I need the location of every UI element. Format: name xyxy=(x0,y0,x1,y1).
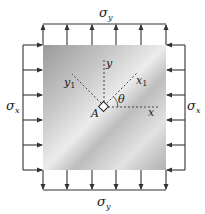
sigma-x-right-label: σx xyxy=(187,98,201,115)
sigma-y-bottom-label: σy xyxy=(97,194,111,211)
sigma-x-left-arrows xyxy=(23,45,42,170)
sigma-x-right-arrows xyxy=(167,45,185,170)
stress-element-diagram: σy σy σx σx y x x1 y1 θ A xyxy=(0,0,205,214)
point-a-label: A xyxy=(90,107,99,120)
sigma-y-top-label: σy xyxy=(99,5,113,22)
x-axis-label: x xyxy=(148,106,155,119)
sigma-y-bottom-arrows xyxy=(43,170,166,190)
theta-label: θ xyxy=(118,93,125,106)
sigma-y-top-arrows xyxy=(43,24,166,45)
y-axis-label: y xyxy=(105,57,113,70)
sigma-x-left-label: σx xyxy=(6,98,20,115)
